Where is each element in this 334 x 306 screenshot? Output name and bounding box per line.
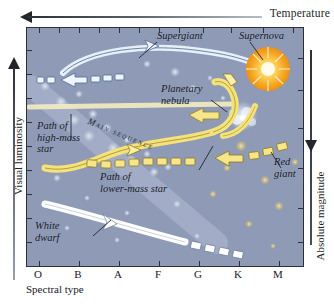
- axis-tick-bottom: [199, 261, 200, 266]
- axis-tick-bottom: [119, 261, 120, 266]
- luminosity-axis-label: Visual luminosity: [12, 106, 24, 206]
- label-supergiant: Supergiant: [157, 30, 203, 42]
- hr-diagram-figure: Temperature Visual luminosity Absolute m…: [0, 0, 334, 306]
- axis-tick-top: [79, 28, 80, 33]
- axis-tick-right: [298, 90, 303, 91]
- temperature-arrow-line: [28, 16, 262, 18]
- axis-tick-top: [293, 28, 294, 33]
- x-tick-label: G: [194, 268, 202, 280]
- magnitude-arrow-icon: [305, 140, 317, 152]
- label-planetary-nebula: Planetary nebula: [161, 83, 202, 106]
- label-supernova: Supernova: [239, 30, 284, 42]
- axis-tick-bottom: [159, 261, 160, 266]
- axis-tick-right: [298, 208, 303, 209]
- spectral-type-tick-labels: O B A F G K M: [26, 268, 302, 284]
- supernova-star: [246, 47, 290, 91]
- axis-tick-left: [27, 122, 32, 123]
- axis-tick-bottom: [39, 261, 40, 266]
- axis-tick-top: [39, 28, 40, 33]
- axis-tick-left: [27, 50, 32, 51]
- spectral-type-axis-title: Spectral type: [26, 283, 84, 295]
- label-path-lower-mass-star: Path of lower-mass star: [100, 171, 167, 194]
- axis-tick-left: [27, 98, 32, 99]
- axis-tick-bottom: [239, 261, 240, 266]
- x-tick-label: M: [273, 268, 283, 280]
- axis-tick-top: [59, 28, 60, 33]
- axis-tick-left: [27, 170, 32, 171]
- x-tick-label: O: [34, 268, 42, 280]
- axis-tick-top: [203, 28, 204, 33]
- axis-tick-right: [298, 242, 303, 243]
- axis-tick-left: [27, 146, 32, 147]
- axis-tick-left: [27, 242, 32, 243]
- x-tick-label: A: [114, 268, 122, 280]
- axis-tick-right: [298, 58, 303, 59]
- label-red-giant: Red giant: [274, 156, 296, 179]
- x-tick-label: F: [155, 268, 161, 280]
- temperature-axis-label: Temperature: [270, 7, 330, 19]
- axis-tick-right: [298, 168, 303, 169]
- label-white-dwarf: White dwarf: [35, 220, 60, 243]
- axis-tick-bottom: [279, 261, 280, 266]
- axis-tick-left: [27, 218, 32, 219]
- axis-tick-right: [298, 128, 303, 129]
- axis-tick-top: [139, 28, 140, 33]
- plot-area: Supergiant Supernova Main sequence Plane…: [26, 27, 304, 267]
- planetary-nebula-arrow: [189, 108, 219, 123]
- axis-tick-left: [27, 74, 32, 75]
- magnitude-axis-label: Absolute magnitude: [314, 163, 326, 269]
- axis-tick-top: [99, 28, 100, 33]
- axis-tick-left: [27, 194, 32, 195]
- temperature-axis: Temperature: [0, 4, 334, 24]
- label-path-high-mass-star: Path of high-mass star: [37, 120, 80, 155]
- axis-tick-top: [231, 28, 232, 33]
- axis-tick-bottom: [79, 261, 80, 266]
- axis-tick-top: [119, 28, 120, 33]
- x-tick-label: B: [74, 268, 81, 280]
- x-tick-label: K: [234, 268, 242, 280]
